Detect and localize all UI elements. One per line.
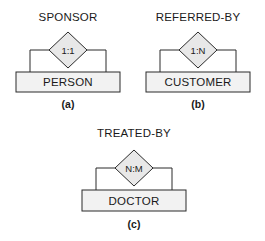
entity-label-doctor: DOCTOR	[109, 195, 160, 207]
er-diagram-figure: SPONSOR PERSON 1:1 (a) REFERRED-BY CUSTO…	[0, 0, 265, 241]
er-panel-a: SPONSOR PERSON 1:1 (a)	[8, 4, 128, 116]
panel-caption-c: (c)	[128, 218, 141, 230]
panel-c-canvas: TREATED-BY DOCTOR N:M (c)	[72, 120, 196, 238]
entity-label-person: PERSON	[43, 76, 93, 88]
er-panel-c: TREATED-BY DOCTOR N:M (c)	[72, 120, 196, 238]
panel-caption-a: (a)	[62, 98, 75, 110]
cardinality-label-c: N:M	[125, 163, 143, 174]
entity-label-customer: CUSTOMER	[164, 76, 231, 88]
cardinality-label-a: 1:1	[61, 45, 74, 56]
er-panel-b: REFERRED-BY CUSTOMER 1:N (b)	[136, 4, 260, 116]
cardinality-label-b: 1:N	[191, 45, 206, 56]
relationship-label-treated-by: TREATED-BY	[97, 127, 171, 139]
relationship-label-sponsor: SPONSOR	[39, 11, 98, 23]
relationship-label-referred-by: REFERRED-BY	[156, 11, 241, 23]
panel-a-canvas: SPONSOR PERSON 1:1 (a)	[8, 4, 128, 116]
panel-caption-b: (b)	[191, 98, 204, 110]
panel-b-canvas: REFERRED-BY CUSTOMER 1:N (b)	[136, 4, 260, 116]
